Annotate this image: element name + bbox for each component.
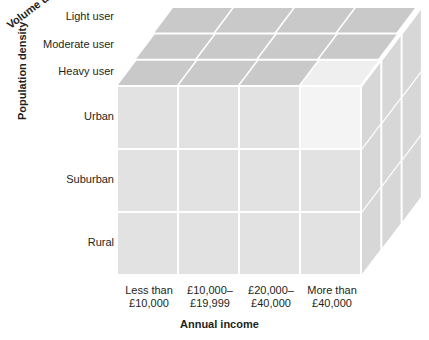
front-cell-rural-income3 [301,213,360,274]
axis-title-population-density: Population density [16,22,28,120]
front-cell-rural-income1 [179,213,238,274]
income-tick-2: £20,000– £40,000 [240,284,302,310]
cube-top-face [118,8,415,85]
income-tick-1-line1: £10,000– [179,284,241,297]
income-tick-0: Less than £10,000 [118,284,180,310]
income-tick-0-line2: £10,000 [118,297,180,310]
density-tick-urban: Urban [2,110,114,123]
density-tick-suburban: Suburban [2,173,114,186]
income-tick-2-line1: £20,000– [240,284,302,297]
income-tick-2-line2: £40,000 [240,297,302,310]
diagram-canvas: Volume usage Light user Moderate user He… [0,0,429,340]
cube-front-face [118,87,360,274]
income-tick-1-line2: £19,999 [179,297,241,310]
income-tick-0-line1: Less than [118,284,180,297]
front-cell-urban-income3-highlight [301,87,360,148]
front-cell-urban-income2 [240,87,299,148]
front-cell-urban-income1 [179,87,238,148]
density-tick-rural: Rural [2,236,114,249]
front-cell-suburban-income3 [301,150,360,211]
income-tick-3-line1: More than [301,284,363,297]
front-cell-suburban-income0 [118,150,177,211]
income-tick-1: £10,000– £19,999 [179,284,241,310]
front-cell-suburban-income1 [179,150,238,211]
front-cell-rural-income0 [118,213,177,274]
axis-title-annual-income: Annual income [180,318,259,330]
income-tick-3: More than £40,000 [301,284,363,310]
front-cell-rural-income2 [240,213,299,274]
front-cell-urban-income0 [118,87,177,148]
income-tick-3-line2: £40,000 [301,297,363,310]
front-cell-suburban-income2 [240,150,299,211]
